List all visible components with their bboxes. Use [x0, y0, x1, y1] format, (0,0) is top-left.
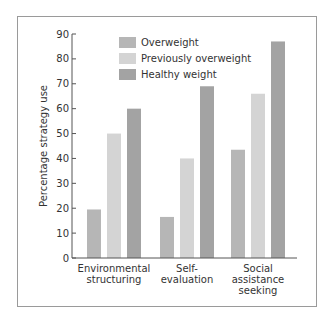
bar-overweight [87, 209, 101, 258]
x-category-label: Self-evaluation [161, 263, 214, 285]
bar-overweight [231, 150, 245, 258]
bar-healthy-weight [127, 109, 141, 258]
y-tick-label: 80 [56, 53, 69, 64]
bar-overweight [160, 217, 174, 258]
y-tick-label: 60 [56, 103, 69, 114]
legend-label: Overweight [141, 37, 199, 48]
y-axis: 0102030405060708090 [56, 29, 76, 264]
legend-swatch [119, 37, 136, 48]
y-tick-label: 30 [56, 178, 69, 189]
y-tick-label: 50 [56, 128, 69, 139]
y-tick-label: 20 [56, 203, 69, 214]
legend-label: Previously overweight [141, 53, 251, 64]
bar-previously-overweight [107, 134, 121, 258]
legend-swatch [119, 53, 136, 64]
y-axis-label: Percentage strategy use [38, 85, 49, 207]
y-tick-label: 10 [56, 228, 69, 239]
y-tick-label: 0 [63, 253, 69, 264]
y-tick-label: 90 [56, 29, 69, 40]
bar-previously-overweight [251, 94, 265, 258]
y-tick-label: 70 [56, 78, 69, 89]
bar-previously-overweight [180, 158, 194, 258]
bar-healthy-weight [200, 86, 214, 258]
legend: OverweightPreviously overweightHealthy w… [119, 37, 251, 80]
legend-label: Healthy weight [141, 69, 217, 80]
bar-healthy-weight [271, 41, 285, 258]
bar-chart: 0102030405060708090 Environmentalstructu… [0, 0, 331, 316]
x-category-label: Environmentalstructuring [78, 263, 151, 285]
x-axis: EnvironmentalstructuringSelf-evaluationS… [72, 258, 297, 296]
legend-swatch [119, 69, 136, 80]
y-tick-label: 40 [56, 153, 69, 164]
x-category-label: Socialassistanceseeking [232, 263, 285, 296]
